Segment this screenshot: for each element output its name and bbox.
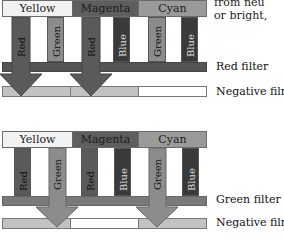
red-pass-arrow-icon: Red bbox=[0, 17, 44, 97]
magenta-layer: Magenta bbox=[72, 131, 139, 148]
blue-light-bar: Blue bbox=[182, 148, 199, 196]
svg-text:Green: Green bbox=[152, 158, 163, 190]
film-segment-clear bbox=[139, 87, 206, 96]
green-light-bar: Green bbox=[47, 17, 64, 62]
cyan-layer: Cyan bbox=[138, 131, 207, 148]
magenta-layer: Magenta bbox=[72, 0, 139, 17]
blue-light-bar: Blue bbox=[114, 148, 131, 196]
green-filter-label: Green filter bbox=[216, 193, 281, 206]
green-pass-arrow-icon: Green bbox=[36, 148, 80, 228]
negative-film-label: Negative film bbox=[216, 216, 284, 229]
blue-light-bar: Blue bbox=[181, 17, 198, 62]
negative-film-label: Negative film bbox=[216, 85, 284, 98]
side-text-line-2: or bright, bbox=[214, 9, 267, 22]
svg-text:Red: Red bbox=[16, 37, 27, 57]
red-light-bar: Red bbox=[14, 148, 31, 196]
svg-text:Red: Red bbox=[86, 37, 97, 57]
film-segment-clear bbox=[71, 219, 139, 228]
blue-light-bar: Blue bbox=[113, 17, 130, 62]
red-pass-arrow-icon: Red bbox=[70, 17, 114, 97]
cyan-layer: Cyan bbox=[138, 0, 207, 17]
green-pass-arrow-icon: Green bbox=[136, 148, 180, 228]
svg-text:Green: Green bbox=[52, 158, 63, 190]
yellow-layer: Yellow bbox=[2, 131, 73, 148]
side-text-line-1: from neu bbox=[214, 0, 265, 9]
green-light-bar: Green bbox=[148, 17, 166, 62]
red-filter-label: Red filter bbox=[216, 60, 268, 73]
red-light-bar: Red bbox=[81, 148, 98, 196]
yellow-layer: Yellow bbox=[2, 0, 73, 17]
